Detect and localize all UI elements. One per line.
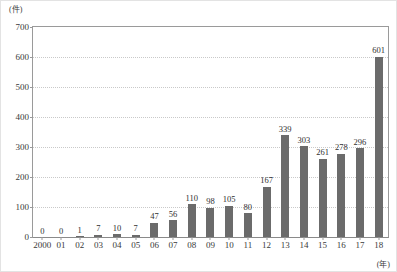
bar-value-label: 303	[298, 136, 311, 145]
bar-value-label: 47	[150, 212, 159, 221]
y-axis-tick-label: 400	[16, 113, 30, 122]
x-axis-tick-label: 08	[187, 241, 196, 250]
x-axis-tick-label: 2000	[33, 241, 51, 250]
bar-value-label: 167	[260, 176, 273, 185]
x-axis-tick-label: 06	[150, 241, 159, 250]
bar-value-label: 7	[134, 224, 138, 233]
x-axis-tick-label: 16	[337, 241, 346, 250]
bar-value-label: 56	[169, 210, 178, 219]
bar-value-label: 105	[223, 195, 236, 204]
bar-value-label: 80	[244, 203, 253, 212]
bar-value-label: 296	[354, 138, 367, 147]
x-axis-tick-label: 15	[318, 241, 327, 250]
bar-value-label: 601	[372, 46, 385, 55]
x-axis-unit-label: (年)	[377, 258, 390, 269]
bar[interactable]	[300, 146, 308, 237]
bar-slot: 4706	[145, 27, 164, 237]
x-axis-tick-label: 04	[113, 241, 122, 250]
x-axis-tick-label: 14	[299, 241, 308, 250]
x-axis-tick-label: 02	[75, 241, 84, 250]
bar-slot: 26115	[313, 27, 332, 237]
bar-slot: 703	[89, 27, 108, 237]
bar-slot: 30314	[295, 27, 314, 237]
bar-slot: 5607	[164, 27, 183, 237]
bar-slot: 11008	[182, 27, 201, 237]
bar-slot: 27816	[332, 27, 351, 237]
bar-chart-figure: (件) 0100200300400500600700 0200000110270…	[0, 0, 397, 272]
x-axis-tick-label: 05	[131, 241, 140, 250]
bar[interactable]	[337, 154, 345, 237]
y-axis-unit-label: (件)	[9, 3, 22, 14]
bar[interactable]	[244, 213, 252, 237]
bar-value-label: 10	[113, 224, 122, 233]
y-axis-tick-label: 500	[16, 83, 30, 92]
bars-group: 0200000110270310047054706560711008980910…	[33, 27, 388, 237]
bar[interactable]	[206, 208, 214, 237]
bar-value-label: 278	[335, 143, 348, 152]
y-axis-tick-label: 0	[25, 233, 30, 242]
x-axis-tick-label: 18	[374, 241, 383, 250]
y-axis-tick-label: 700	[16, 23, 30, 32]
bar-slot: 60118	[369, 27, 388, 237]
plot-area: 0100200300400500600700 02000001102703100…	[32, 26, 389, 238]
bar-slot: 33913	[276, 27, 295, 237]
bar-slot: 9809	[201, 27, 220, 237]
x-axis-tick-label: 07	[169, 241, 178, 250]
bar-slot: 16712	[257, 27, 276, 237]
bar[interactable]	[169, 220, 177, 237]
bar[interactable]	[188, 204, 196, 237]
y-axis-tick-mark	[30, 237, 33, 238]
x-axis-tick-label: 01	[57, 241, 66, 250]
bar-value-label: 1	[78, 226, 82, 235]
bar-slot: 102	[70, 27, 89, 237]
bar-slot: 02000	[33, 27, 52, 237]
bar[interactable]	[375, 57, 383, 237]
bar-value-label: 110	[186, 194, 198, 203]
bar[interactable]	[281, 135, 289, 237]
bar[interactable]	[263, 187, 271, 237]
y-axis-tick-label: 200	[16, 173, 30, 182]
bar-slot: 10510	[220, 27, 239, 237]
x-axis-tick-label: 11	[244, 241, 253, 250]
bar-slot: 29617	[351, 27, 370, 237]
bar-slot: 1004	[108, 27, 127, 237]
bar[interactable]	[225, 206, 233, 238]
bar-value-label: 98	[206, 197, 215, 206]
y-axis-tick-label: 300	[16, 143, 30, 152]
bar-slot: 001	[52, 27, 71, 237]
x-axis-tick-label: 03	[94, 241, 103, 250]
x-axis-tick-label: 10	[225, 241, 234, 250]
bar-value-label: 339	[279, 125, 292, 134]
x-axis-tick-label: 12	[262, 241, 271, 250]
bar-value-label: 7	[96, 224, 100, 233]
y-axis-tick-label: 600	[16, 53, 30, 62]
bar[interactable]	[356, 148, 364, 237]
x-axis-tick-label: 17	[355, 241, 364, 250]
y-axis-tick-label: 100	[16, 203, 30, 212]
bar[interactable]	[150, 223, 158, 237]
x-axis-tick-label: 09	[206, 241, 215, 250]
x-axis-tick-label: 13	[281, 241, 290, 250]
bar-slot: 705	[126, 27, 145, 237]
bar-value-label: 261	[316, 148, 329, 157]
bar-value-label: 0	[40, 227, 44, 236]
bar-value-label: 0	[59, 227, 63, 236]
bar-slot: 8011	[239, 27, 258, 237]
bar[interactable]	[319, 159, 327, 237]
